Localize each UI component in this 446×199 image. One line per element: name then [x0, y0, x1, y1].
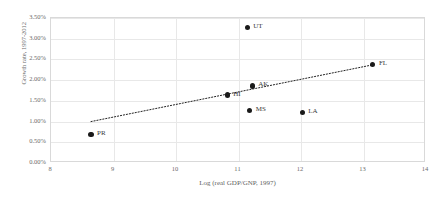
x-axis-tick-label: 11: [234, 166, 240, 173]
y-axis-title: Growth rate, 1997-2012: [21, 0, 28, 123]
gridline-horizontal: [51, 122, 424, 123]
x-axis-tick-label: 13: [359, 166, 366, 173]
data-point-marker: [245, 25, 250, 30]
x-axis-tick-label: 9: [111, 166, 114, 173]
gridline-horizontal: [51, 101, 424, 102]
gridline-horizontal: [51, 39, 424, 40]
data-point-marker: [300, 110, 305, 115]
x-axis-tick-label: 12: [297, 166, 304, 173]
gridline-vertical: [364, 18, 365, 161]
gridline-vertical: [301, 18, 302, 161]
data-point-marker: [247, 108, 252, 113]
x-axis-tick-label: 10: [172, 166, 179, 173]
gridline-horizontal: [51, 18, 424, 19]
x-axis-tick-label: 14: [422, 166, 429, 173]
gridline-vertical: [176, 18, 177, 161]
x-axis-title: Log (real GDP/GNP, 1997): [50, 180, 425, 187]
y-axis-tick-label: 3.50%: [29, 14, 46, 21]
gridline-horizontal: [51, 80, 424, 81]
data-point-label: UT: [253, 23, 262, 30]
gridline-vertical: [114, 18, 115, 161]
data-point-label: PR: [97, 130, 106, 137]
x-axis-tick-labels: 891011121314: [50, 166, 425, 178]
plot-area: UTFLAKHIMSLAPR: [50, 17, 425, 162]
data-point-label: AK: [258, 81, 268, 88]
y-axis-tick-label: 3.00%: [29, 34, 46, 41]
data-point-label: LA: [308, 108, 317, 115]
y-axis-tick-label: 2.00%: [29, 76, 46, 83]
gridline-horizontal: [51, 142, 424, 143]
y-axis-tick-label: 2.50%: [29, 55, 46, 62]
y-axis-tick-label: 1.50%: [29, 97, 46, 104]
data-point-label: FL: [379, 60, 387, 67]
y-axis-tick-label: 0.00%: [29, 159, 46, 166]
data-point-marker: [225, 92, 230, 97]
data-point-label: MS: [256, 106, 266, 113]
data-point-marker: [88, 132, 93, 137]
scatter-chart-figure: 0.00%0.50%1.00%1.50%2.00%2.50%3.00%3.50%…: [0, 0, 446, 199]
data-point-marker: [250, 83, 255, 88]
y-axis-tick-label: 0.50%: [29, 138, 46, 145]
data-point-marker: [370, 62, 375, 67]
data-point-label: HI: [233, 91, 240, 98]
gridline-horizontal: [51, 59, 424, 60]
x-axis-tick-label: 8: [48, 166, 51, 173]
y-axis-tick-label: 1.00%: [29, 117, 46, 124]
